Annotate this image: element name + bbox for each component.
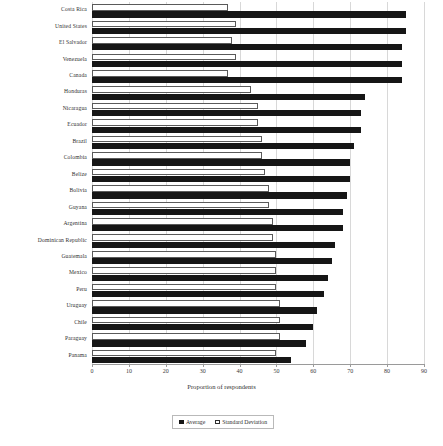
x-tick	[387, 364, 388, 367]
bar-average	[92, 209, 343, 215]
bar-row	[92, 101, 424, 119]
bar-standard-deviation	[92, 21, 236, 28]
x-tick	[166, 364, 167, 367]
bar-standard-deviation	[92, 333, 280, 340]
legend-swatch-average-icon	[179, 420, 184, 425]
bar-average	[92, 143, 354, 149]
bar-average	[92, 275, 328, 281]
legend-label-average: Average	[186, 419, 205, 425]
bar-standard-deviation	[92, 152, 262, 159]
x-tick-label: 60	[298, 368, 328, 374]
x-tick-label: 80	[372, 368, 402, 374]
x-tick-label: 10	[114, 368, 144, 374]
plot-area	[92, 2, 424, 364]
bar-standard-deviation	[92, 202, 269, 209]
category-label: Guatemala	[0, 254, 87, 260]
bar-average	[92, 307, 317, 313]
category-label: Brazil	[0, 139, 87, 145]
bar-standard-deviation	[92, 70, 228, 77]
category-label: United States	[0, 24, 87, 30]
bar-standard-deviation	[92, 350, 276, 357]
x-tick	[92, 364, 93, 367]
bar-standard-deviation	[92, 103, 258, 110]
bar-row	[92, 315, 424, 333]
category-label: Paraguay	[0, 336, 87, 342]
legend-item-average: Average	[179, 419, 205, 425]
category-label: Costa Rica	[0, 7, 87, 13]
bar-average	[92, 44, 402, 50]
bar-row	[92, 232, 424, 250]
bar-row	[92, 68, 424, 86]
bar-average	[92, 258, 332, 264]
bar-average	[92, 242, 335, 248]
bar-average	[92, 94, 365, 100]
bar-standard-deviation	[92, 86, 251, 93]
bar-row	[92, 35, 424, 53]
bar-row	[92, 84, 424, 102]
x-axis-title: Proportion of respondents	[0, 383, 443, 390]
bar-standard-deviation	[92, 284, 276, 291]
category-label: Dominican Republic	[0, 238, 87, 244]
bar-row	[92, 2, 424, 20]
bar-row	[92, 298, 424, 316]
bar-standard-deviation	[92, 169, 265, 176]
bar-row	[92, 249, 424, 267]
x-tick-label: 0	[77, 368, 107, 374]
bar-row	[92, 134, 424, 152]
legend-label-standard-deviation: Standard Deviation	[222, 419, 267, 425]
x-tick	[203, 364, 204, 367]
bar-standard-deviation	[92, 267, 276, 274]
bar-standard-deviation	[92, 218, 273, 225]
gridline	[424, 2, 425, 364]
category-label: Ecuador	[0, 122, 87, 128]
x-tick	[276, 364, 277, 367]
bar-row	[92, 51, 424, 69]
category-label: El Salvador	[0, 40, 87, 46]
category-label: Bolivia	[0, 188, 87, 194]
x-tick	[240, 364, 241, 367]
bar-average	[92, 77, 402, 83]
bar-standard-deviation	[92, 251, 276, 258]
bar-average	[92, 176, 350, 182]
bar-row	[92, 216, 424, 234]
category-label: Mexico	[0, 270, 87, 276]
x-tick	[424, 364, 425, 367]
category-label: Belize	[0, 172, 87, 178]
bar-standard-deviation	[92, 54, 236, 61]
bar-row	[92, 199, 424, 217]
x-tick	[129, 364, 130, 367]
category-label: Peru	[0, 287, 87, 293]
x-tick-label: 40	[225, 368, 255, 374]
category-label: Argentina	[0, 221, 87, 227]
bar-standard-deviation	[92, 185, 269, 192]
x-tick-label: 30	[188, 368, 218, 374]
bar-average	[92, 127, 361, 133]
category-label: Panama	[0, 353, 87, 359]
bar-row	[92, 167, 424, 185]
x-tick	[350, 364, 351, 367]
category-label: Venezuela	[0, 57, 87, 63]
bar-average	[92, 192, 347, 198]
x-tick-label: 50	[261, 368, 291, 374]
x-axis-line	[92, 364, 424, 365]
category-label: Colombia	[0, 155, 87, 161]
category-label: Uruguay	[0, 303, 87, 309]
bar-standard-deviation	[92, 4, 228, 11]
x-tick-label: 70	[335, 368, 365, 374]
legend-item-standard-deviation: Standard Deviation	[215, 419, 267, 425]
bar-average	[92, 357, 291, 363]
bar-standard-deviation	[92, 300, 280, 307]
bar-row	[92, 18, 424, 36]
category-label: Guyana	[0, 205, 87, 211]
bar-average	[92, 324, 313, 330]
bar-average	[92, 291, 324, 297]
bar-row	[92, 265, 424, 283]
bar-standard-deviation	[92, 136, 262, 143]
x-tick-label: 20	[151, 368, 181, 374]
bar-average	[92, 159, 350, 165]
bar-average	[92, 11, 406, 17]
category-label: Canada	[0, 73, 87, 79]
bar-standard-deviation	[92, 317, 280, 324]
bar-standard-deviation	[92, 37, 232, 44]
legend-swatch-standard-deviation-icon	[215, 420, 220, 425]
